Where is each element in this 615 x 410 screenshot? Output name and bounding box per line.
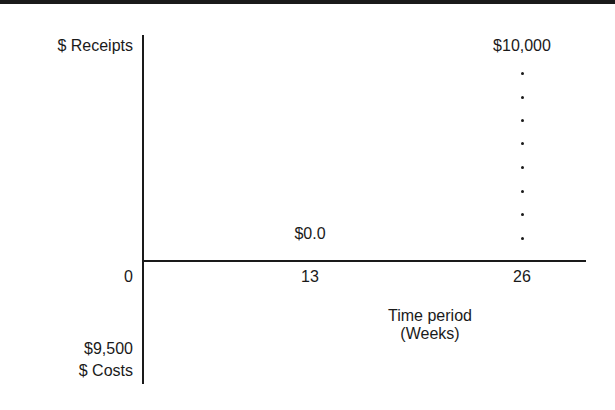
top-border: [0, 0, 615, 4]
origin-label: 0: [100, 268, 133, 286]
x-axis-line: [143, 260, 586, 262]
y-axis-line: [142, 35, 144, 384]
x-tick-13: 13: [290, 268, 330, 286]
receipt-13-label: $0.0: [270, 225, 350, 243]
x-tick-26: 26: [502, 268, 542, 286]
x-axis-label-line1: Time period: [360, 307, 500, 325]
y-axis-top-label: $ Receipts: [30, 37, 133, 55]
y-axis-bottom-label: $ Costs: [40, 362, 133, 380]
cost-value-label: $9,500: [40, 340, 133, 358]
x-axis-label-line2: (Weeks): [360, 325, 500, 343]
receipt-26-label: $10,000: [470, 37, 574, 55]
